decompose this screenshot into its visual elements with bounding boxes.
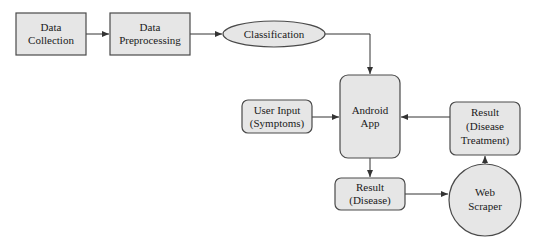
data-collection-label-line1: Data (41, 21, 62, 33)
classification-label: Classification (244, 28, 305, 40)
web-scraper-label-line2: Scraper (468, 200, 502, 212)
data-preprocessing-label-line2: Preprocessing (119, 34, 181, 46)
data-collection-label-line2: Collection (28, 34, 74, 46)
node-classification: Classification (223, 21, 325, 47)
node-result-disease: Result (Disease) (335, 178, 405, 210)
android-app-label-line2: App (361, 117, 380, 129)
data-preprocessing-label-line1: Data (140, 21, 161, 33)
flowchart-canvas: Data Collection Data Preprocessing Class… (0, 0, 533, 240)
web-scraper-label-line1: Web (475, 186, 495, 198)
user-input-label-line2: (Symptoms) (250, 117, 305, 130)
node-user-input: User Input (Symptoms) (242, 100, 312, 133)
node-data-preprocessing: Data Preprocessing (110, 13, 190, 55)
result-disease-label-line2: (Disease) (349, 194, 391, 207)
result-treatment-label-line1: Result (471, 106, 499, 118)
node-result-treatment: Result (Disease Treatment) (450, 102, 520, 155)
node-web-scraper: Web Scraper (449, 164, 521, 236)
edge-classification-to-android (325, 34, 370, 74)
result-treatment-label-line2: (Disease (466, 120, 504, 133)
node-data-collection: Data Collection (16, 13, 86, 55)
result-treatment-label-line3: Treatment) (461, 134, 510, 147)
node-android-app: Android App (340, 75, 400, 158)
android-app-label-line1: Android (352, 104, 389, 116)
result-disease-label-line1: Result (356, 181, 384, 193)
user-input-label-line1: User Input (254, 104, 301, 116)
